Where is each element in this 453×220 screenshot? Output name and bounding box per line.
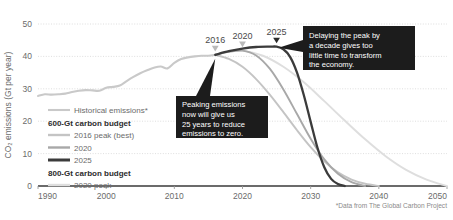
peak-marker-label: 2025 <box>267 27 287 37</box>
y-axis-title: CO₂ emissions (Gt per year) <box>3 51 13 158</box>
legend-group-header: 600-Gt carbon budget <box>48 119 131 128</box>
callout-line: emissions to zero. <box>182 129 243 138</box>
peak-marker-label: 2020 <box>232 31 252 41</box>
peak-marker-triangle-icon <box>212 46 219 52</box>
peak-marker-triangle-icon <box>239 42 246 48</box>
legend: Historical emissions*600-Gt carbon budge… <box>48 106 148 190</box>
series-line <box>38 55 215 96</box>
legend-item-label: 2016 peak (best) <box>74 131 134 140</box>
callout-line: Delaying the peak by <box>309 31 380 40</box>
callout-line: a decade gives too <box>309 41 373 50</box>
emissions-pathways-chart: 01020304050CO₂ emissions (Gt per year)19… <box>0 0 453 220</box>
chart-canvas: 01020304050CO₂ emissions (Gt per year)19… <box>0 0 453 220</box>
svg-text:30: 30 <box>23 84 33 94</box>
svg-text:2020: 2020 <box>233 191 252 201</box>
svg-text:2000: 2000 <box>97 191 116 201</box>
svg-text:50: 50 <box>23 19 33 29</box>
source-note: *Data from The Global Carbon Project <box>336 202 447 210</box>
svg-text:1990: 1990 <box>38 191 57 201</box>
svg-text:20: 20 <box>23 116 33 126</box>
callout-line: Peaking emissions <box>182 100 246 109</box>
callout-pointer <box>196 59 215 96</box>
svg-text:10: 10 <box>23 149 33 159</box>
legend-item-label: Historical emissions* <box>74 106 148 115</box>
source-note-text: *Data from The Global Carbon Project <box>336 202 447 210</box>
y-axis: 01020304050CO₂ emissions (Gt per year) <box>3 19 32 191</box>
svg-text:2040: 2040 <box>369 191 388 201</box>
callout-line: little time to transform <box>309 51 382 60</box>
callout-line: 25 years to reduce <box>182 120 245 129</box>
svg-text:2050: 2050 <box>428 191 447 201</box>
callout-line: now will give us <box>182 110 235 119</box>
callout-line: the economy. <box>309 60 354 69</box>
svg-text:0: 0 <box>27 181 32 191</box>
peak-marker-label: 2016 <box>205 35 225 45</box>
legend-group-header: 800-Gt carbon budget <box>48 169 131 178</box>
legend-item-label: 2020 <box>74 144 92 153</box>
svg-text:2010: 2010 <box>165 191 184 201</box>
svg-text:2030: 2030 <box>301 191 320 201</box>
peak-marker-triangle-icon <box>273 38 280 44</box>
callout-pointer <box>279 40 303 52</box>
legend-item-label: 2025 <box>74 156 92 165</box>
legend-item-label: 2020 peak <box>74 181 112 190</box>
svg-text:40: 40 <box>23 51 33 61</box>
